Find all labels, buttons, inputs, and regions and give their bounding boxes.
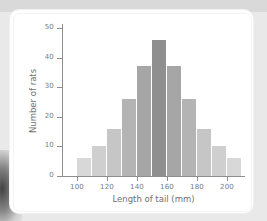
y-axis-tick <box>57 117 62 118</box>
y-axis-tick <box>57 176 62 177</box>
histogram-bar <box>227 158 241 176</box>
histogram-bar <box>152 40 166 176</box>
x-axis-tick <box>137 177 138 181</box>
histogram-bar <box>182 99 196 176</box>
x-axis-tick-label: 100 <box>65 183 89 191</box>
x-axis-tick-label: 120 <box>95 183 119 191</box>
y-axis-tick <box>57 87 62 88</box>
y-axis-title: Number of rats <box>28 46 38 156</box>
histogram-bar <box>212 146 226 176</box>
histogram-bar <box>107 129 121 176</box>
x-axis-tick <box>197 177 198 181</box>
x-axis-title: Length of tail (mm) <box>62 194 245 204</box>
x-axis-tick-label: 180 <box>185 183 209 191</box>
histogram-bar <box>77 158 91 176</box>
x-axis-tick-label: 200 <box>215 183 239 191</box>
x-axis-tick <box>107 177 108 181</box>
histogram-bar <box>167 66 181 176</box>
y-axis-tick <box>57 58 62 59</box>
histogram-bar <box>92 146 106 176</box>
histogram-bar <box>137 66 151 176</box>
x-axis-tick-label: 140 <box>125 183 149 191</box>
x-axis-tick <box>167 177 168 181</box>
y-axis-tick <box>57 146 62 147</box>
x-axis-line <box>62 176 245 177</box>
y-axis-tick <box>57 28 62 29</box>
x-axis-tick <box>77 177 78 181</box>
y-axis-tick-label: 0 <box>34 171 54 179</box>
x-axis-tick-label: 160 <box>155 183 179 191</box>
histogram-bar <box>197 129 211 176</box>
plot-area: 01020304050 100120140160180200 Length of… <box>0 0 267 221</box>
y-axis-tick-label: 50 <box>34 23 54 31</box>
x-axis-tick <box>227 177 228 181</box>
y-axis-line <box>62 24 63 177</box>
histogram-bar <box>122 99 136 176</box>
histogram-screenshot: 01020304050 100120140160180200 Length of… <box>0 0 267 221</box>
